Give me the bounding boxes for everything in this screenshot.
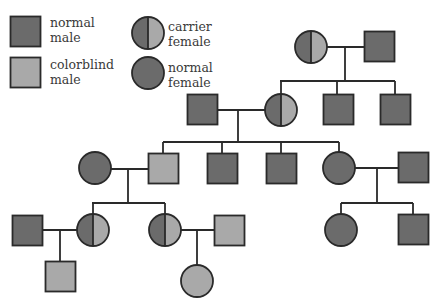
individual-ii-1: [188, 95, 218, 125]
individual-iii-1: [79, 152, 111, 184]
individual-ii-2: [265, 94, 297, 126]
legend-normal-female-circle-icon: [132, 57, 164, 89]
individual-iii-2: [149, 154, 179, 184]
individual-i-1: [295, 31, 327, 63]
legend-text: male: [50, 30, 95, 45]
individual-iv-6: [399, 215, 429, 245]
legend-label-normal-male: normal male: [50, 15, 95, 45]
legend-text: female: [168, 34, 212, 49]
legend-colorblind-male-square-icon: [11, 58, 41, 88]
individual-ii-4: [381, 95, 411, 125]
legend-text: normal: [50, 15, 95, 30]
legend-text: female: [168, 75, 213, 90]
legend-text: colorblind: [50, 57, 114, 72]
individual-iv-5: [325, 214, 357, 246]
legend-text: normal: [168, 60, 213, 75]
legend-label-colorblind-male: colorblind male: [50, 57, 114, 87]
individual-ii-3: [324, 95, 354, 125]
legend-label-normal-female: normal female: [168, 60, 213, 90]
pedigree-chart: [0, 0, 435, 307]
individual-v-1: [46, 262, 76, 292]
individual-iii-3: [208, 154, 238, 184]
legend-text: male: [50, 72, 114, 87]
individual-iii-5: [323, 152, 355, 184]
legend-normal-male-square-icon: [11, 17, 41, 47]
legend-label-carrier-female: carrier female: [168, 19, 212, 49]
individual-i-2: [365, 32, 395, 62]
individual-iv-3: [149, 214, 181, 246]
individual-iii-6: [399, 153, 429, 183]
individual-iv-1: [13, 216, 43, 246]
individual-v-2: [181, 265, 213, 297]
individual-iv-2: [77, 214, 109, 246]
individual-iv-4: [215, 216, 245, 246]
pedigree-diagram: normal male colorblind male carrier fema…: [0, 0, 435, 307]
legend-text: carrier: [168, 19, 212, 34]
individual-iii-4: [267, 154, 297, 184]
legend-carrier-female-circle-icon: [132, 17, 164, 49]
